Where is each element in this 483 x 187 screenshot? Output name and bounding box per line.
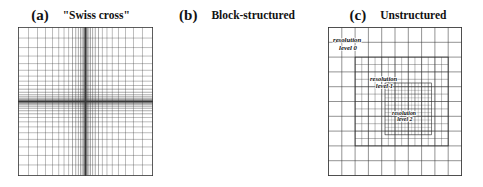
- panel-block-structured: (b) Block-structured resolutionresolutio…: [161, 0, 313, 187]
- panel-a-title: "Swiss cross": [63, 9, 130, 21]
- panel-b-caption: (b) Block-structured: [161, 5, 313, 25]
- panel-c-tag: (c): [350, 7, 367, 24]
- panel-a-caption: (a) "Swiss cross": [0, 5, 161, 25]
- figure-root: (a) "Swiss cross" (b) Block-structured r…: [0, 0, 483, 187]
- panel-swiss-cross: (a) "Swiss cross": [0, 0, 161, 187]
- swiss-cross-grid: [18, 27, 153, 176]
- panel-c-title: Unstructured: [380, 9, 446, 21]
- panel-unstructured: (c) Unstructured: [313, 0, 483, 187]
- panel-b-tag: (b): [179, 7, 197, 24]
- panel-a-tag: (a): [31, 7, 49, 24]
- panel-b-title: Block-structured: [211, 9, 294, 21]
- panel-c-caption: (c) Unstructured: [313, 5, 483, 25]
